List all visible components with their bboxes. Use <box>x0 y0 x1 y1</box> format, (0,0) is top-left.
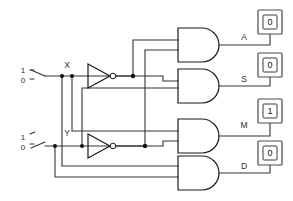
output-lamp-d[interactable]: 0 <box>258 141 282 165</box>
wire-x-to-d-gate <box>62 76 178 166</box>
output-lamp-m[interactable]: 1 <box>258 99 282 123</box>
junction-y-bus-2 <box>53 144 57 148</box>
and-gate-d[interactable] <box>178 156 270 190</box>
junction-y-bus <box>80 144 84 148</box>
and-gate-icon <box>178 156 219 190</box>
input-label-x: X <box>64 60 70 70</box>
switch-y-lever[interactable] <box>31 142 45 148</box>
output-label-s: S <box>241 74 247 84</box>
switch-y-contact-high <box>30 132 35 134</box>
wire-noty-to-a-gate <box>145 50 178 146</box>
wire-y-to-d-gate <box>55 146 178 177</box>
switch-x-lever[interactable] <box>31 70 45 76</box>
output-label-d: D <box>241 161 247 171</box>
input-y-high-label: 1 <box>21 133 26 142</box>
lamp-value-a: 0 <box>267 17 272 27</box>
and-gate-icon <box>178 119 219 153</box>
junction-x-bus <box>70 74 74 78</box>
and-gate-a[interactable] <box>178 28 270 62</box>
logic-circuit-diagram: 0 0 1 0 X 1 0 Y 1 0 A S M D <box>0 0 293 201</box>
junction-x-bus-2 <box>60 74 64 78</box>
output-lamp-s[interactable]: 0 <box>258 53 282 77</box>
input-label-y: Y <box>64 128 70 138</box>
junction-noty-out <box>143 144 147 148</box>
junction-notx-out <box>131 74 135 78</box>
wire-y-to-s-gate <box>82 88 178 146</box>
output-label-a: A <box>241 32 247 42</box>
input-x-low-label: 0 <box>21 76 26 85</box>
and-gate-m[interactable] <box>178 119 270 153</box>
input-y-low-label: 0 <box>21 143 26 152</box>
output-label-m: M <box>240 120 247 130</box>
wire-notx-to-a-gate <box>133 40 178 76</box>
lamp-value-m: 1 <box>267 106 272 116</box>
and-gate-s[interactable] <box>178 69 270 103</box>
inverter-bubble-x <box>110 73 116 79</box>
input-switch-x[interactable] <box>30 70 133 79</box>
lamp-value-d: 0 <box>267 148 272 158</box>
output-lamp-a[interactable]: 0 <box>258 10 282 34</box>
wire-notx-to-s-gate <box>133 76 178 81</box>
wire-noty-to-m-gate <box>145 141 178 146</box>
and-gate-icon <box>178 28 219 62</box>
and-gate-icon <box>178 69 219 103</box>
lamp-value-s: 0 <box>267 60 272 70</box>
schematic-svg: 0 0 1 0 X 1 0 Y 1 0 A S M D <box>0 0 293 201</box>
input-x-high-label: 1 <box>21 66 26 75</box>
inverter-bubble-y <box>110 143 116 149</box>
